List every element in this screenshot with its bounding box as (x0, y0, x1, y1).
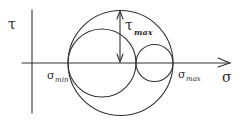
tau-max-subscript: max (134, 27, 153, 37)
sigma-max-symbol: σ (178, 68, 186, 81)
sigma-min-subscript: min (55, 76, 69, 84)
sigma-max-subscript: max (186, 75, 201, 83)
sigma-axis-label: σ (222, 69, 232, 85)
mohr-circle-diagram: τ σ σ min σ max τ max (0, 0, 242, 123)
tau-max-symbol: τ (125, 17, 133, 33)
diagram-canvas: τ σ σ min σ max τ max (0, 0, 242, 123)
sigma-min-symbol: σ (47, 69, 55, 82)
tau-axis-label: τ (8, 16, 16, 32)
